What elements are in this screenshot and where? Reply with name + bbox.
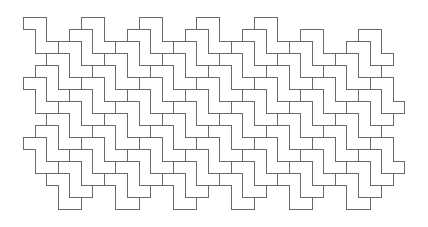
z-pentomino-tile: [24, 18, 59, 54]
tessellation-figure: [0, 0, 428, 227]
tessellation-canvas: [0, 0, 428, 227]
tile-group: [24, 18, 405, 210]
